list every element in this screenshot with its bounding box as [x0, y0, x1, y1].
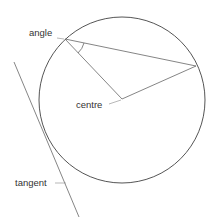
circle — [39, 17, 205, 183]
radius-to-vertex — [65, 39, 122, 99]
tangent-line — [14, 62, 79, 217]
angle-leader — [57, 38, 64, 39]
centre-leader — [109, 100, 121, 104]
angle-arc — [78, 43, 84, 53]
tangent-label: tangent — [15, 178, 47, 188]
chord-line — [65, 39, 196, 66]
centre-label: centre — [76, 100, 102, 110]
radius-to-chord-end — [122, 66, 196, 99]
angle-label: angle — [29, 28, 52, 38]
